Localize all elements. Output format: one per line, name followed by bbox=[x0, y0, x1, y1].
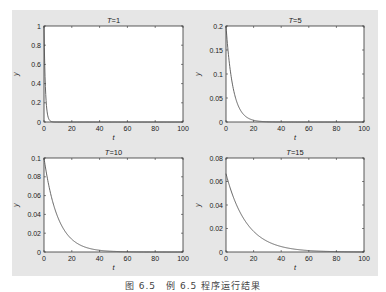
subplot-title: T=15 bbox=[286, 148, 303, 157]
x-tick-label: 100 bbox=[177, 125, 189, 132]
plot-area bbox=[44, 158, 183, 252]
y-tick-label: 0.4 bbox=[31, 80, 41, 87]
subplot-4: 02040608010000.020.040.060.08T=15ty bbox=[193, 148, 370, 272]
x-tick-label: 0 bbox=[42, 125, 46, 132]
y-tick-label: 1 bbox=[37, 23, 41, 30]
y-tick-label: 0.08 bbox=[209, 155, 223, 162]
y-axis-label: y bbox=[11, 71, 20, 77]
x-tick-label: 60 bbox=[305, 125, 313, 132]
y-tick-label: 0.2 bbox=[31, 99, 41, 106]
y-axis-label: y bbox=[11, 202, 20, 208]
y-tick-label: 0.06 bbox=[209, 178, 223, 185]
y-tick-label: 0.15 bbox=[209, 47, 223, 54]
y-tick-label: 0.08 bbox=[27, 173, 41, 180]
x-axis-label: t bbox=[112, 133, 115, 142]
x-tick-label: 40 bbox=[96, 125, 104, 132]
x-tick-label: 100 bbox=[358, 255, 370, 262]
x-tick-label: 100 bbox=[177, 255, 189, 262]
y-tick-label: 0.02 bbox=[209, 225, 223, 232]
plot-area bbox=[226, 26, 364, 122]
subplot-title: T=10 bbox=[105, 148, 122, 157]
y-tick-label: 0.04 bbox=[27, 211, 41, 218]
x-tick-label: 40 bbox=[277, 255, 285, 262]
figure-caption: 图 6.5 例 6.5 程序运行结果 bbox=[0, 279, 386, 292]
subplot-1: 02040608010000.20.40.60.81T=1ty bbox=[11, 16, 189, 142]
x-tick-label: 60 bbox=[124, 125, 132, 132]
x-axis-label: t bbox=[112, 263, 115, 272]
x-tick-label: 0 bbox=[224, 125, 228, 132]
y-tick-label: 0.6 bbox=[31, 61, 41, 68]
plot-area bbox=[44, 26, 183, 122]
y-axis-label: y bbox=[193, 71, 202, 77]
subplot-title: T=5 bbox=[288, 16, 301, 25]
y-tick-label: 0.04 bbox=[209, 202, 223, 209]
y-tick-label: 0.1 bbox=[31, 155, 41, 162]
plot-area bbox=[226, 158, 364, 252]
y-tick-label: 0.05 bbox=[209, 95, 223, 102]
subplot-title: T=1 bbox=[107, 16, 120, 25]
x-axis-label: t bbox=[294, 263, 297, 272]
x-tick-label: 40 bbox=[277, 125, 285, 132]
y-tick-label: 0.1 bbox=[213, 71, 223, 78]
x-tick-label: 20 bbox=[250, 255, 258, 262]
x-tick-label: 60 bbox=[305, 255, 313, 262]
subplot-2: 02040608010000.050.10.150.2T=5ty bbox=[193, 16, 370, 142]
x-axis-label: t bbox=[294, 133, 297, 142]
x-tick-label: 20 bbox=[250, 125, 258, 132]
x-tick-label: 20 bbox=[68, 125, 76, 132]
x-tick-label: 80 bbox=[151, 125, 159, 132]
y-tick-label: 0 bbox=[219, 249, 223, 256]
y-tick-label: 0.06 bbox=[27, 192, 41, 199]
x-tick-label: 0 bbox=[224, 255, 228, 262]
y-tick-label: 0.02 bbox=[27, 230, 41, 237]
y-tick-label: 0.8 bbox=[31, 42, 41, 49]
y-tick-label: 0 bbox=[37, 119, 41, 126]
x-tick-label: 60 bbox=[124, 255, 132, 262]
x-tick-label: 80 bbox=[333, 125, 341, 132]
y-tick-label: 0 bbox=[37, 249, 41, 256]
x-tick-label: 0 bbox=[42, 255, 46, 262]
y-axis-label: y bbox=[193, 202, 202, 208]
x-tick-label: 100 bbox=[358, 125, 370, 132]
y-tick-label: 0.2 bbox=[213, 23, 223, 30]
x-tick-label: 80 bbox=[333, 255, 341, 262]
x-tick-label: 80 bbox=[151, 255, 159, 262]
x-tick-label: 40 bbox=[96, 255, 104, 262]
y-tick-label: 0 bbox=[219, 119, 223, 126]
x-tick-label: 20 bbox=[68, 255, 76, 262]
subplot-3: 02040608010000.020.040.060.080.1T=10ty bbox=[11, 148, 189, 272]
